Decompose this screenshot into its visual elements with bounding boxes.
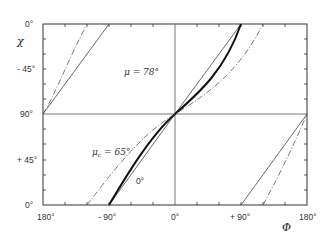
x-label-right: 180° [299, 212, 317, 222]
y-label-90: 90° [20, 109, 33, 119]
annotation-zero-deg: 0° [136, 176, 144, 186]
annotation-mu-78: μ = 78° [124, 67, 159, 77]
x-label-left: 180° [37, 212, 55, 222]
y-label-bottom: 0° [25, 200, 33, 210]
x-label-plus90: + 90° [230, 212, 250, 222]
y-label-plus45: + 45° [17, 155, 37, 165]
x-label-0: 0° [171, 212, 179, 222]
chart: 0° - 45° 90° + 45° 0° χ 180° - 90° 0° + … [0, 0, 328, 240]
x-axis-title: Φ [282, 221, 291, 234]
y-label-minus45: - 45° [17, 64, 35, 74]
annotation-mu-c-65: μc = 65° [92, 147, 130, 158]
y-axis-title: χ [16, 35, 25, 48]
x-label-minus90: - 90° [98, 212, 116, 222]
y-label-top: 0° [25, 19, 33, 29]
